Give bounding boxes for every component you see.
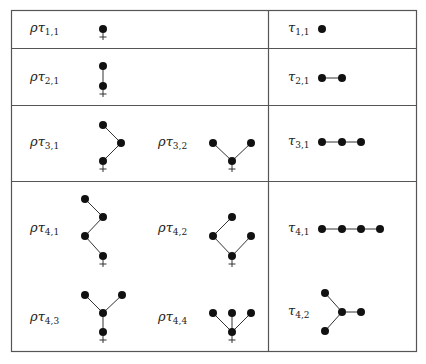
tree-rho-tau-3-2 [209, 139, 255, 172]
label-rho-tau-3-2: ρτ3,2 [158, 135, 187, 151]
rooted-trees-table: ρτ1,1 ρτ2,1 ρτ3,1 ρτ3,2 ρτ4,1 ρτ4,2 ρτ4,… [0, 0, 426, 364]
root-marker-icon [100, 33, 107, 40]
tree-tau-3-1 [318, 138, 365, 146]
tree-tau-4-2 [321, 289, 365, 335]
label-rho-tau-3-1: ρτ3,1 [30, 135, 59, 151]
tree-rho-tau-4-2 [209, 213, 255, 267]
table-grid [11, 10, 417, 352]
tree-rho-tau-3-1 [99, 121, 125, 172]
root-marker-icon [229, 165, 236, 172]
label-rho-tau-4-4: ρτ4,4 [158, 310, 187, 326]
label-rho-tau-2-1: ρτ2,1 [30, 70, 59, 86]
table-graphics [0, 0, 426, 364]
label-rho-tau-4-3: ρτ4,3 [30, 310, 59, 326]
label-rho-tau-4-2: ρτ4,2 [158, 221, 187, 237]
label-tau-4-2: τ4,2 [288, 304, 310, 320]
tree-rho-tau-1-1 [99, 25, 107, 40]
tree-tau-1-1 [318, 25, 326, 33]
root-marker-icon [100, 260, 107, 267]
root-marker-icon [229, 336, 236, 343]
label-tau-3-1: τ3,1 [288, 134, 310, 150]
label-tau-2-1: τ2,1 [288, 70, 310, 86]
root-marker-icon [100, 336, 107, 343]
tree-rho-tau-2-1 [99, 62, 107, 97]
tree-tau-4-1 [318, 225, 384, 233]
label-rho-tau-4-1: ρτ4,1 [30, 221, 59, 237]
root-marker-icon [100, 165, 107, 172]
label-tau-1-1: τ1,1 [288, 21, 310, 37]
tree-rho-tau-4-1 [81, 195, 107, 267]
tree-tau-2-1 [318, 74, 346, 82]
label-tau-4-1: τ4,1 [288, 221, 310, 237]
label-rho-tau-1-1: ρτ1,1 [30, 21, 59, 37]
root-marker-icon [100, 90, 107, 97]
root-marker-icon [229, 260, 236, 267]
tree-rho-tau-4-3 [81, 291, 126, 343]
tree-rho-tau-4-4 [209, 309, 255, 343]
